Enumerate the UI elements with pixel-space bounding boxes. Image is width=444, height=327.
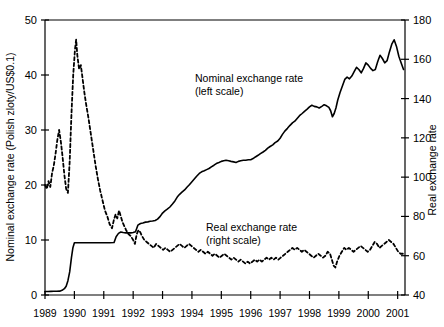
- y2-tick-label: 40: [413, 289, 425, 301]
- y2-tick-label: 80: [413, 210, 425, 222]
- x-tick-label: 1990: [63, 307, 87, 319]
- x-tick-label: 1992: [121, 307, 145, 319]
- y2-tick-label: 140: [413, 93, 431, 105]
- legend-real-line2: (right scale): [206, 234, 261, 246]
- y-tick-label: 0: [31, 289, 37, 301]
- legend-nominal-line1: Nominal exchange rate: [195, 72, 303, 84]
- x-tick-label: 1991: [92, 307, 116, 319]
- y-tick-label: 40: [25, 69, 37, 81]
- x-tick-label: 2001: [386, 307, 410, 319]
- x-tick-label: 1996: [239, 307, 263, 319]
- x-tick-label: 1989: [33, 307, 57, 319]
- x-tick-label: 1999: [327, 307, 351, 319]
- y2-tick-label: 180: [413, 14, 431, 26]
- x-tick-label: 1995: [210, 307, 234, 319]
- x-tick-label: 1993: [151, 307, 175, 319]
- legend-nominal-line2: (left scale): [195, 85, 243, 97]
- x-tick-label: 1998: [298, 307, 322, 319]
- chart-canvas: 01020304050 406080100120140160180 198919…: [0, 0, 444, 327]
- exchange-rate-chart: 01020304050 406080100120140160180 198919…: [0, 0, 444, 327]
- y-tick-label: 10: [25, 234, 37, 246]
- y2-tick-label: 160: [413, 53, 431, 65]
- y-tick-label: 30: [25, 124, 37, 136]
- y-axis-label: Nominal exchange rate (Polish zloty/US$0…: [4, 53, 16, 262]
- x-tick-label: 1997: [268, 307, 292, 319]
- y-tick-label: 50: [25, 14, 37, 26]
- x-tick-label: 1994: [180, 307, 204, 319]
- y2-tick-label: 60: [413, 250, 425, 262]
- legend-real-line1: Real exchange rate: [206, 221, 297, 233]
- x-tick-label: 2000: [357, 307, 381, 319]
- y2-axis-label: Real exchange rate: [426, 124, 438, 215]
- y-tick-label: 20: [25, 179, 37, 191]
